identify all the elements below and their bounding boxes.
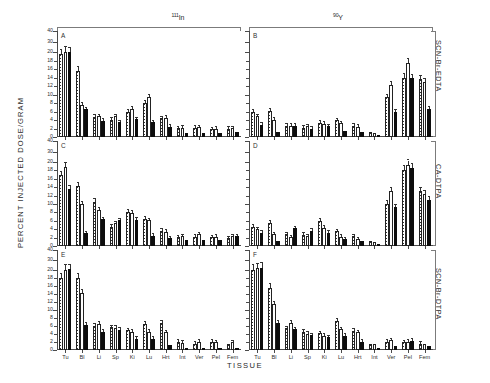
panel-f: FTuBlLiSpKiLuHrtIntVerPelFem xyxy=(249,250,433,350)
error-bar-cap xyxy=(319,331,321,332)
error-bar xyxy=(358,125,359,127)
bar-group-ver xyxy=(385,31,397,137)
y-tick xyxy=(54,170,57,171)
error-bar xyxy=(178,236,179,238)
bar-stippled xyxy=(143,324,147,350)
error-bar xyxy=(162,117,163,119)
y-tick xyxy=(54,212,57,213)
error-bar-cap xyxy=(269,283,271,284)
x-tick xyxy=(199,350,200,353)
error-bar-cap xyxy=(252,109,254,110)
y-tick-label: 40 xyxy=(47,138,53,143)
x-tick xyxy=(374,246,375,249)
error-bar xyxy=(162,229,163,231)
bar-open xyxy=(147,332,151,350)
error-bar xyxy=(103,330,104,332)
x-category-label: Tu xyxy=(62,354,68,360)
error-bar xyxy=(61,50,62,55)
error-bar xyxy=(103,218,104,220)
bar-stippled xyxy=(302,235,306,246)
error-bar xyxy=(120,219,121,221)
y-tick xyxy=(246,170,249,171)
bar-solid xyxy=(235,236,239,246)
x-category-label: Bl xyxy=(80,354,85,360)
column-header-y-symbol: Y xyxy=(338,14,343,21)
bar-open xyxy=(214,237,218,246)
error-bar-cap xyxy=(98,114,100,115)
bar-stippled xyxy=(335,321,339,350)
error-bar-cap xyxy=(306,331,308,332)
y-tick-label: 2 xyxy=(50,126,53,131)
bar-open xyxy=(339,329,343,350)
bar-group-lu xyxy=(143,250,155,350)
bar-solid xyxy=(202,240,206,246)
error-bar-cap xyxy=(102,329,104,330)
y-tick xyxy=(53,52,57,53)
bar-group-ki xyxy=(318,31,330,137)
bar-stippled xyxy=(402,78,406,137)
bar-solid xyxy=(260,233,264,246)
error-bar-cap xyxy=(336,318,338,319)
bar-open xyxy=(197,234,201,246)
error-bar xyxy=(145,322,146,324)
y-tick-label: 6 xyxy=(50,323,53,328)
y-tick xyxy=(54,69,57,70)
y-tick xyxy=(54,318,57,319)
error-bar xyxy=(408,59,409,63)
y-tick-label: 2 xyxy=(50,235,53,240)
y-tick-label: 12 xyxy=(47,193,53,198)
bar-solid xyxy=(360,342,364,350)
error-bar-cap xyxy=(394,109,396,110)
bar-group-fem xyxy=(227,250,239,350)
error-bar xyxy=(233,235,234,237)
x-category-label: Ki xyxy=(322,354,327,360)
error-bar-cap xyxy=(327,124,329,125)
y-tick xyxy=(246,342,249,343)
bar-solid xyxy=(310,129,314,137)
error-bar xyxy=(391,339,392,341)
x-tick xyxy=(166,137,167,140)
bar-stippled xyxy=(193,237,197,246)
x-category-label: Lu xyxy=(338,354,344,360)
bar-solid xyxy=(276,241,280,246)
error-bar-cap xyxy=(118,327,120,328)
error-bar xyxy=(99,208,100,210)
error-bar-cap xyxy=(256,263,258,264)
error-bar-cap xyxy=(198,232,200,233)
bar-solid xyxy=(235,348,239,350)
bar-stippled xyxy=(76,71,80,137)
y-tick-label: 16 xyxy=(47,283,53,288)
bar-stippled xyxy=(352,236,356,246)
x-tick xyxy=(324,137,325,140)
bar-stippled xyxy=(419,79,423,137)
y-tick-label: 4 xyxy=(50,227,53,232)
y-tick xyxy=(246,212,249,213)
error-bar xyxy=(270,109,271,111)
bar-solid xyxy=(84,233,88,246)
x-tick xyxy=(341,137,342,140)
bar-open xyxy=(423,194,427,246)
error-bar-cap xyxy=(181,125,183,126)
bar-open xyxy=(164,232,168,246)
bar-solid xyxy=(310,335,314,350)
bar-stippled xyxy=(335,231,339,246)
error-bar-cap xyxy=(160,228,162,229)
error-bar-cap xyxy=(198,339,200,340)
error-bar xyxy=(358,331,359,333)
x-category-label: Pel xyxy=(212,354,220,360)
error-bar xyxy=(295,227,296,229)
error-bar-cap xyxy=(423,78,425,79)
y-tick xyxy=(54,61,57,62)
x-tick xyxy=(149,350,150,353)
error-bar-cap xyxy=(290,320,292,321)
bar-group-hrt xyxy=(352,31,364,137)
bar-stippled xyxy=(160,231,164,246)
error-bar-cap xyxy=(135,336,137,337)
y-tick xyxy=(246,278,249,279)
bar-open xyxy=(406,165,410,246)
error-bar-cap xyxy=(419,187,421,188)
bar-stippled xyxy=(143,103,147,137)
x-tick xyxy=(391,350,392,353)
y-tick xyxy=(53,141,57,142)
bar-open xyxy=(197,127,201,137)
